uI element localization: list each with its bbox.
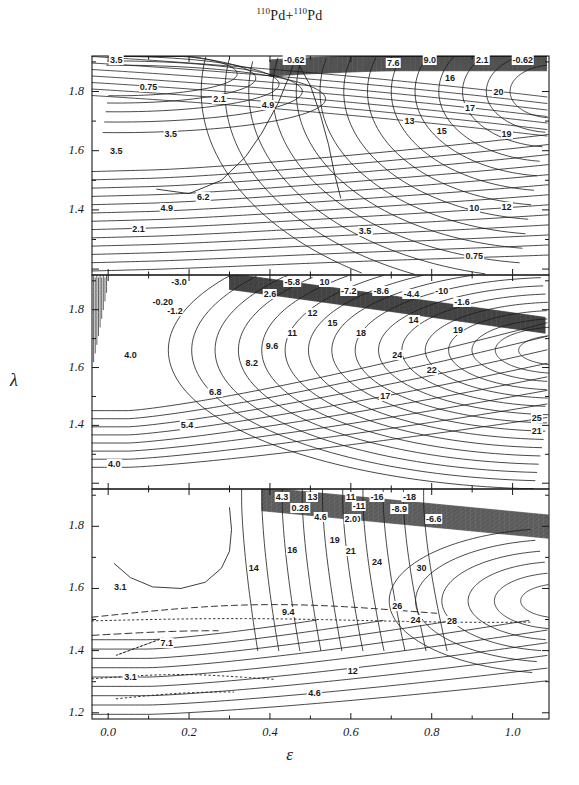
x-tick-label: 0.4 bbox=[250, 725, 290, 740]
x-tick-label: 0.8 bbox=[412, 725, 452, 740]
contour-label: 24 bbox=[371, 557, 383, 567]
contour-label: 17 bbox=[379, 391, 391, 401]
contour-label: 8.2 bbox=[244, 358, 259, 368]
contour-label: 4.0 bbox=[123, 350, 138, 360]
contour-label: 3.1 bbox=[123, 672, 138, 682]
contour-label: 25 bbox=[531, 413, 543, 423]
contour-label: 3.1 bbox=[113, 582, 128, 592]
contour-label: -7.2 bbox=[340, 286, 358, 296]
contour-label: 19 bbox=[452, 325, 464, 335]
contour-label: 21 bbox=[345, 546, 357, 556]
contour-label: 15 bbox=[436, 126, 448, 136]
contour-label: 16 bbox=[286, 545, 298, 555]
contour-label: -18 bbox=[402, 492, 417, 502]
x-tick-label: 0.2 bbox=[169, 725, 209, 740]
y-tick-label: 1.2 bbox=[44, 705, 84, 720]
contour-label: 4.9 bbox=[261, 100, 276, 110]
contour-label: -16 bbox=[370, 492, 385, 502]
contour-label: 4.6 bbox=[313, 512, 328, 522]
y-tick-label: 1.4 bbox=[44, 643, 84, 658]
contour-label: 3.5 bbox=[109, 146, 124, 156]
contour-label: 7.6 bbox=[386, 58, 401, 68]
contour-label: -0.62 bbox=[511, 55, 534, 65]
contour-label: -1.6 bbox=[453, 297, 471, 307]
contour-label: 13 bbox=[306, 492, 318, 502]
contour-label: 3.5 bbox=[358, 226, 373, 236]
contour-label: 12 bbox=[501, 202, 513, 212]
contour-label: -8.9 bbox=[391, 504, 409, 514]
y-tick-label: 1.4 bbox=[44, 202, 84, 217]
contour-label: -3.0 bbox=[170, 277, 188, 287]
contour-label: 0.75 bbox=[464, 251, 484, 261]
contour-label: 12 bbox=[347, 666, 359, 676]
contour-label: -5.8 bbox=[283, 277, 301, 287]
contour-label: 6.2 bbox=[196, 192, 211, 202]
contour-label: 9.4 bbox=[281, 607, 296, 617]
contour-label: 11 bbox=[286, 328, 298, 338]
y-tick-label: 1.8 bbox=[44, 518, 84, 533]
contour-label: 10 bbox=[468, 203, 480, 213]
y-tick-label: 1.6 bbox=[44, 580, 84, 595]
contour-label: 4.3 bbox=[275, 492, 290, 502]
contour-label: -1.2 bbox=[166, 306, 184, 316]
contour-label: 2.0 bbox=[344, 514, 359, 524]
contour-label: 2.1 bbox=[131, 224, 146, 234]
contour-label: 5.4 bbox=[180, 420, 195, 430]
contour-label: 3.5 bbox=[164, 129, 179, 139]
contour-label: 14 bbox=[408, 315, 420, 325]
contour-label: 20 bbox=[492, 87, 504, 97]
contour-label: 14 bbox=[248, 563, 260, 573]
contour-label: 12 bbox=[306, 308, 318, 318]
y-tick-label: 1.8 bbox=[44, 302, 84, 317]
y-tick-label: 1.6 bbox=[44, 143, 84, 158]
contour-label: 18 bbox=[355, 328, 367, 338]
contour-label: 2.1 bbox=[475, 55, 490, 65]
contour-label: -11 bbox=[352, 501, 367, 511]
contour-label: 13 bbox=[403, 116, 415, 126]
x-tick-label: 0.0 bbox=[88, 725, 128, 740]
contour-label: 15 bbox=[327, 318, 339, 328]
contour-label: 2.6 bbox=[263, 289, 278, 299]
y-tick-label: 1.8 bbox=[44, 84, 84, 99]
contour-label: 24 bbox=[410, 615, 422, 625]
contour-plot-svg bbox=[0, 0, 579, 785]
contour-label: -10 bbox=[434, 286, 449, 296]
contour-label: -4.4 bbox=[403, 289, 421, 299]
contour-label: 28 bbox=[446, 616, 458, 626]
contour-label: 7.1 bbox=[160, 638, 175, 648]
contour-label: 10 bbox=[319, 277, 331, 287]
contour-label: 26 bbox=[391, 601, 403, 611]
y-tick-label: 1.6 bbox=[44, 360, 84, 375]
contour-label: 3.5 bbox=[109, 55, 124, 65]
contour-label: 0.75 bbox=[139, 82, 159, 92]
contour-label: 6.8 bbox=[208, 387, 223, 397]
contour-label: -0.62 bbox=[283, 55, 306, 65]
contour-label: 19 bbox=[329, 535, 341, 545]
figure-container: 110Pd+110Pd λ ε 0.00.20.40.60.81.01.81.6… bbox=[0, 0, 579, 785]
contour-label: 17 bbox=[464, 103, 476, 113]
contour-label: 19 bbox=[501, 129, 513, 139]
x-tick-label: 1.0 bbox=[493, 725, 533, 740]
contour-label: 0.28 bbox=[291, 503, 311, 513]
contour-label: 4.6 bbox=[307, 688, 322, 698]
contour-label: 9.0 bbox=[422, 55, 437, 65]
contour-label: 4.0 bbox=[107, 459, 122, 469]
y-tick-label: 1.4 bbox=[44, 417, 84, 432]
contour-label: 9.6 bbox=[265, 341, 280, 351]
x-tick-label: 0.6 bbox=[331, 725, 371, 740]
contour-label: -8.6 bbox=[372, 286, 390, 296]
contour-label: 30 bbox=[416, 563, 428, 573]
contour-label: 24 bbox=[391, 350, 403, 360]
contour-label: -6.6 bbox=[425, 514, 443, 524]
contour-label: 2.1 bbox=[212, 94, 227, 104]
contour-label: 16 bbox=[444, 73, 456, 83]
contour-label: 21 bbox=[531, 426, 543, 436]
contour-label: 4.9 bbox=[160, 203, 175, 213]
contour-label: 22 bbox=[426, 365, 438, 375]
